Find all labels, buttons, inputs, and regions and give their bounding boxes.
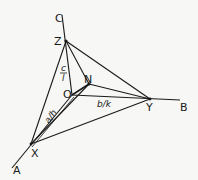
label-b-over-k: b/k bbox=[97, 99, 112, 109]
point-z-dot bbox=[64, 39, 67, 42]
label-axis-b: B bbox=[180, 101, 188, 114]
label-axis-a: A bbox=[13, 164, 21, 177]
label-point-x: X bbox=[31, 147, 39, 160]
axis-b bbox=[72, 95, 180, 100]
label-c-denominator: l bbox=[62, 73, 65, 83]
point-x-dot bbox=[30, 143, 33, 146]
axis-c bbox=[62, 15, 72, 95]
label-c-numerator: c bbox=[61, 63, 66, 73]
label-point-y: Y bbox=[145, 101, 153, 114]
label-axis-c: C bbox=[55, 12, 63, 25]
label-point-n: N bbox=[84, 73, 92, 86]
label-origin-o: O bbox=[63, 88, 72, 101]
line-xn bbox=[31, 84, 89, 144]
point-y-dot bbox=[149, 98, 152, 101]
crystal-plane-intercept-diagram: C Z N O Y B X A c l b/k a/h bbox=[0, 0, 198, 180]
label-a-over-h: a/h bbox=[42, 107, 59, 125]
label-point-z: Z bbox=[54, 35, 62, 48]
edge-zx bbox=[31, 41, 66, 144]
